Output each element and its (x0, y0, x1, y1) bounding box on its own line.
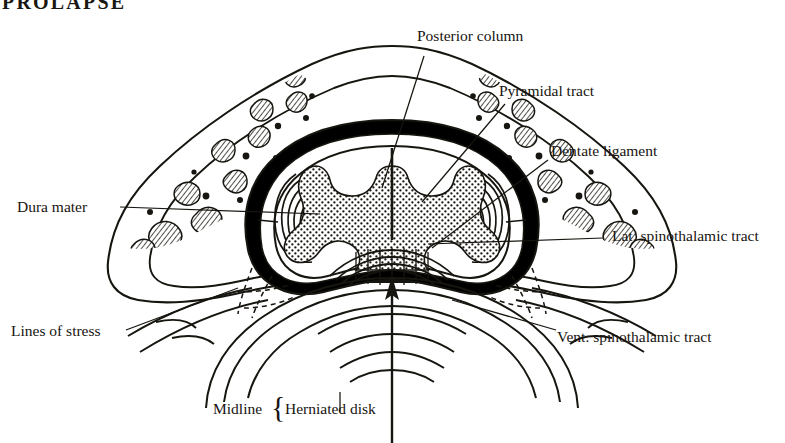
label-posterior-column: Posterior column (417, 27, 523, 45)
label-dentate-ligament: Dentate ligament (551, 142, 657, 160)
label-pyramidal-tract: Pyramidal tract (499, 82, 594, 100)
label-midline: Midline (213, 400, 262, 418)
midline-brace: { (271, 392, 285, 422)
figure-page: PROLAPSE (0, 0, 785, 443)
label-vent-spinothalamic-tract: Vent. spinothalamic tract (557, 328, 712, 346)
label-lat-spinothalamic-tract: Lat. spinothalamic tract (612, 227, 759, 245)
label-dura-mater: Dura mater (17, 198, 87, 216)
label-herniated-disk: Herniated disk (285, 400, 376, 418)
spinal-cord-cross-section-drawing (0, 0, 785, 443)
leader-vent-spinothalamic (452, 300, 556, 330)
pressure-arrow (385, 276, 399, 443)
label-lines-of-stress: Lines of stress (11, 322, 101, 340)
